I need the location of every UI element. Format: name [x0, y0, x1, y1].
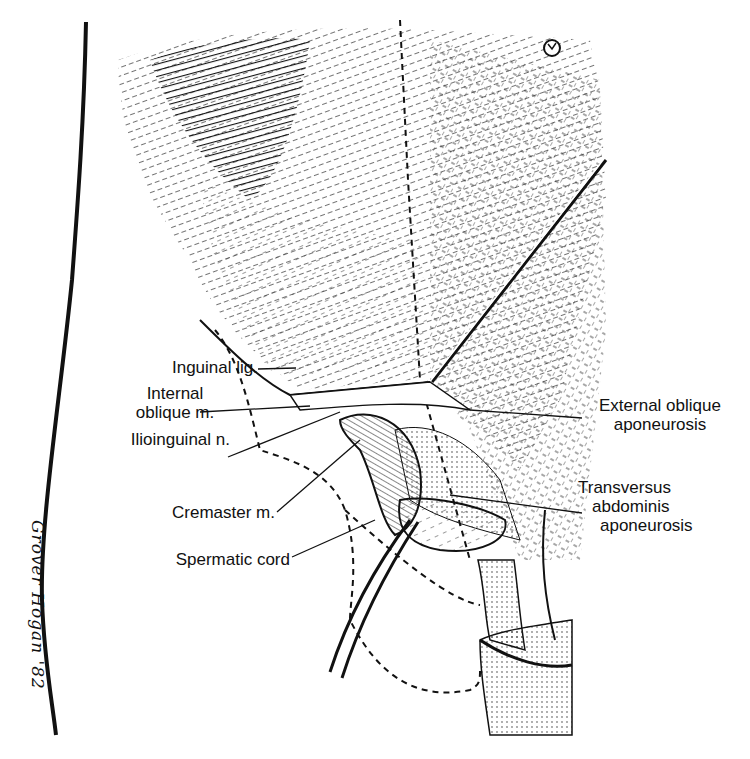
label-external-oblique-line1: External oblique — [576, 396, 744, 415]
retractor-lower — [330, 520, 410, 672]
label-transversus-line2: abdominis — [592, 497, 670, 516]
leader-spermatic-cord — [292, 520, 375, 557]
leader-cremaster — [277, 440, 360, 512]
anatomy-illustration — [0, 0, 750, 759]
label-transversus-line1: Transversus — [578, 478, 671, 497]
label-transversus-line3: aponeurosis — [600, 516, 693, 535]
body-contour — [42, 22, 86, 735]
label-external-oblique-line2: aponeurosis — [576, 415, 744, 434]
label-spermatic-cord: Spermatic cord — [130, 550, 290, 569]
scrotal-region — [480, 620, 572, 735]
label-inguinal-lig: Inguinal lig. — [118, 358, 258, 377]
label-internal-oblique-line2: oblique m. — [100, 403, 250, 422]
label-cremaster: Cremaster m. — [130, 503, 275, 522]
label-internal-oblique-line1: Internal — [100, 384, 250, 403]
artist-signature: Grover Hogan '82 — [28, 520, 48, 720]
label-ilioinguinal: Ilioinguinal n. — [90, 430, 230, 449]
